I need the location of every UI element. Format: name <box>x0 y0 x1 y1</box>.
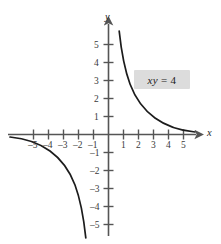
x-tick-label--5: –5 <box>28 141 38 151</box>
x-tick-label--4: –4 <box>43 141 53 151</box>
x-tick-label-3: 3 <box>151 141 156 151</box>
y-tick-label-1: 1 <box>94 113 99 123</box>
hyperbola-branch-quadrant-3 <box>10 137 86 238</box>
y-tick-label-2: 2 <box>94 95 99 105</box>
y-tick-label-4: 4 <box>94 59 99 69</box>
y-tick-label--1: –1 <box>90 149 100 159</box>
x-tick-label--2: –2 <box>73 141 83 151</box>
x-tick-label-5: 5 <box>181 141 186 151</box>
y-tick-label--5: –5 <box>90 221 100 231</box>
x-tick-label-4: 4 <box>166 141 171 151</box>
equation-text: xy = 4 <box>148 74 177 86</box>
x-tick-label-1: 1 <box>121 141 126 151</box>
graph-figure: –5 –4 –3 –2 –1 1 2 3 4 5 5 4 3 2 1 –1 –2… <box>0 0 221 244</box>
y-tick-label--4: –4 <box>90 203 100 213</box>
equation-variables: xy <box>148 74 158 86</box>
y-tick-label--3: –3 <box>90 185 100 195</box>
y-tick-label-5: 5 <box>94 41 99 51</box>
x-tick-label-2: 2 <box>136 141 141 151</box>
x-axis-label: x <box>207 128 212 139</box>
y-tick-label-3: 3 <box>94 77 99 87</box>
y-tick-label--2: –2 <box>90 167 100 177</box>
plot-canvas <box>0 0 221 244</box>
x-tick-label--3: –3 <box>58 141 68 151</box>
equation-relation: = <box>158 74 171 86</box>
y-axis-label: y <box>105 12 110 23</box>
equation-callout: xy = 4 <box>134 70 190 89</box>
equation-value: 4 <box>171 74 177 86</box>
